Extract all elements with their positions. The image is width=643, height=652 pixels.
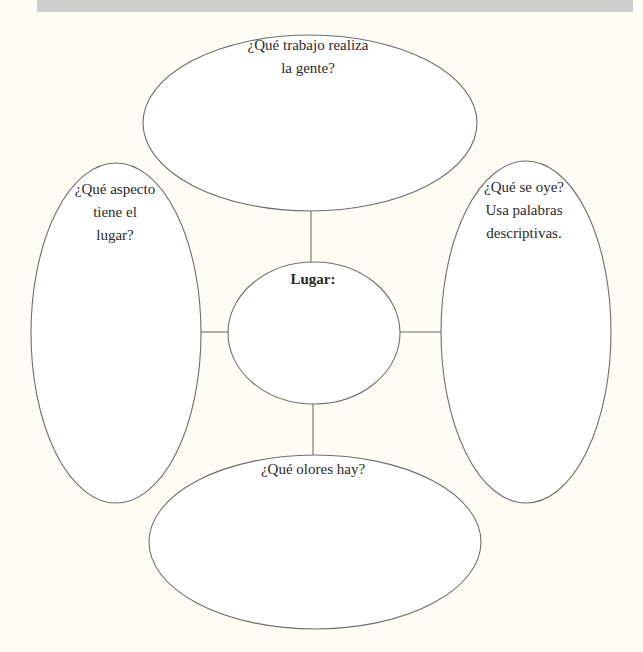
bottom-node-prompt: ¿Qué olores hay? xyxy=(233,458,393,481)
right-node-line-3: descriptivas. xyxy=(464,222,584,245)
left-node-line-3: lugar? xyxy=(55,224,175,247)
top-node-prompt: ¿Qué trabajo realiza la gente? xyxy=(208,34,408,80)
top-node-line-1: ¿Qué trabajo realiza xyxy=(208,34,408,57)
web-diagram xyxy=(0,0,643,652)
top-node-line-2: la gente? xyxy=(208,57,408,80)
bottom-ellipse[interactable] xyxy=(149,455,481,629)
left-node-prompt: ¿Qué aspecto tiene el lugar? xyxy=(55,178,175,247)
left-node-line-2: tiene el xyxy=(55,201,175,224)
left-node-line-1: ¿Qué aspecto xyxy=(55,178,175,201)
center-label: Lugar: xyxy=(263,268,363,291)
right-node-line-2: Usa palabras xyxy=(464,199,584,222)
bottom-node-line-1: ¿Qué olores hay? xyxy=(233,458,393,481)
right-node-line-1: ¿Qué se oye? xyxy=(464,176,584,199)
center-node-label: Lugar: xyxy=(263,268,363,291)
right-node-prompt: ¿Qué se oye? Usa palabras descriptivas. xyxy=(464,176,584,245)
